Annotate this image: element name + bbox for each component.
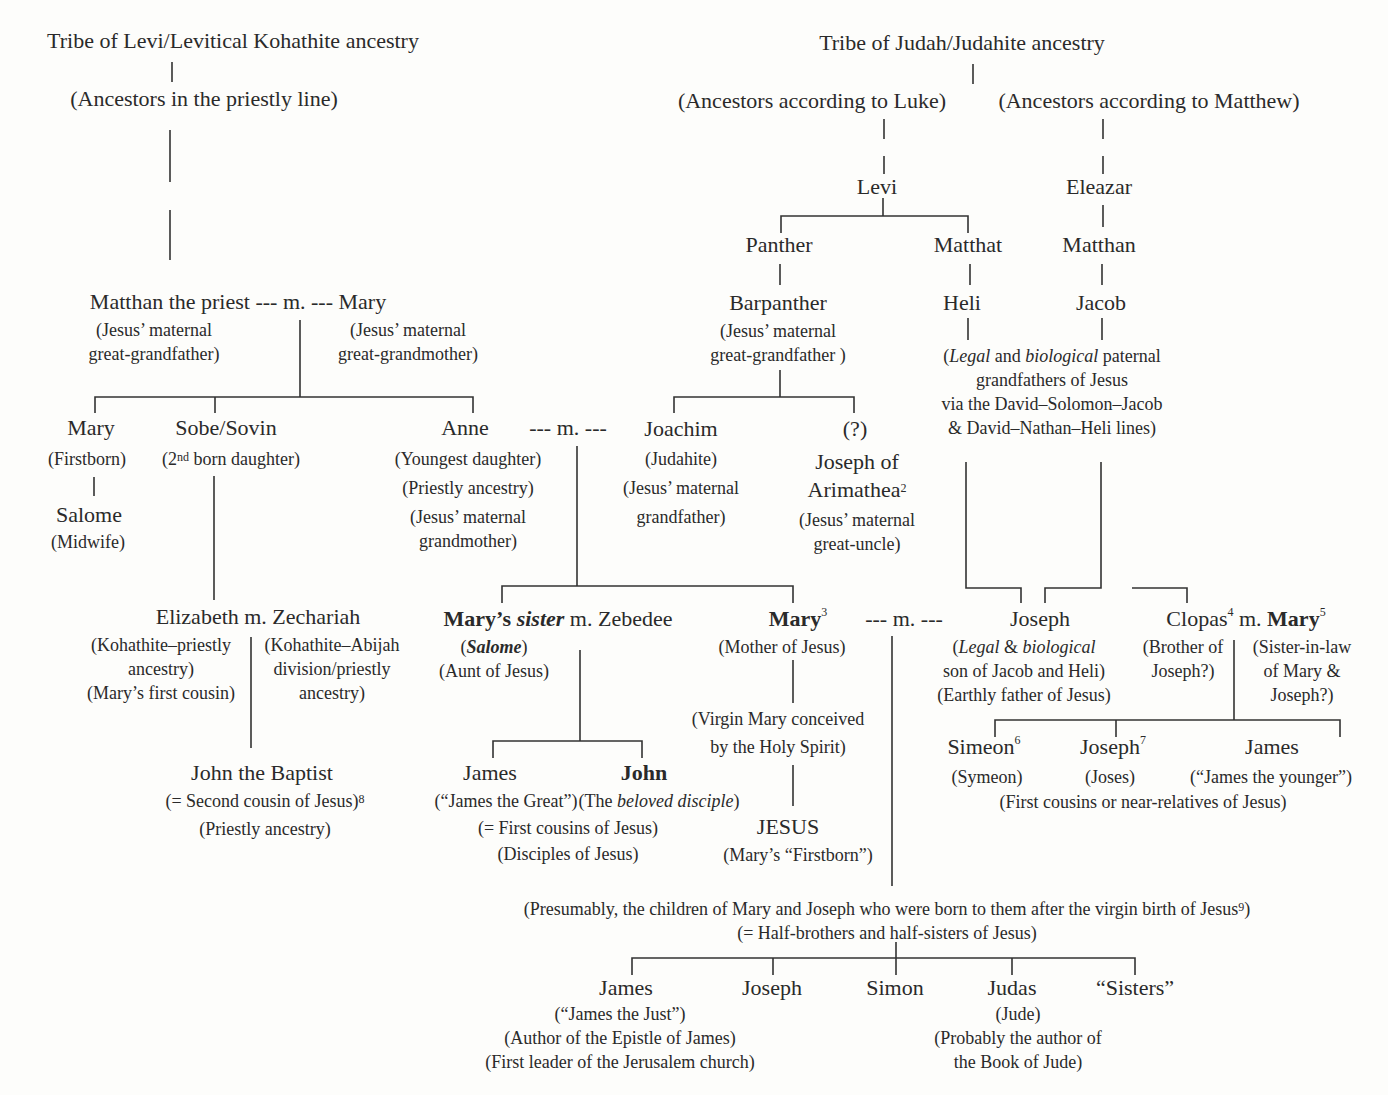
clopas-mary-couple: Clopas4 m. Mary5	[1166, 608, 1325, 630]
heli: Heli	[943, 292, 981, 314]
james-the-just: James	[599, 977, 653, 999]
matthat: Matthat	[934, 234, 1002, 256]
mary-firstborn-note: (Firstborn)	[48, 447, 126, 471]
john-baptist-note: (= Second cousin of Jesus)8(Priestly anc…	[165, 789, 364, 841]
matthew-ancestors-label: (Ancestors according to Matthew)	[998, 90, 1299, 112]
eleazar: Eleazar	[1066, 176, 1132, 198]
joseph-note: (Legal & biologicalson of Jacob and Heli…	[937, 635, 1110, 707]
elizabeth-zechariah: Elizabeth m. Zechariah	[156, 606, 361, 628]
james-great-note: (“James the Great”)	[435, 789, 578, 813]
anne: Anne	[441, 417, 489, 439]
anne-joachim-marriage: --- m. ---	[529, 417, 607, 439]
clopas-note: (Brother ofJoseph?)	[1143, 635, 1223, 683]
matthan-note: (Jesus’ maternalgreat-grandfather)	[89, 318, 220, 366]
mary-firstborn: Mary	[67, 417, 115, 439]
virgin-conception-note: (Virgin Mary conceivedby the Holy Spirit…	[692, 707, 865, 759]
uncertain-marker: (?)	[843, 418, 867, 440]
mary-elder-note: (Jesus’ maternalgreat-grandmother)	[338, 318, 478, 366]
james-the-younger: James	[1245, 736, 1299, 758]
zebedee-children-note: (= First cousins of Jesus)(Disciples of …	[478, 816, 658, 866]
simon: Simon	[866, 977, 923, 999]
james-younger-note: (“James the younger”)	[1190, 765, 1352, 789]
judas-note: (Jude)(Probably the author ofthe Book of…	[934, 1002, 1101, 1074]
mary-mother-of-jesus: Mary3	[769, 608, 828, 630]
levi: Levi	[857, 176, 897, 198]
joses-note: (Joses)	[1085, 765, 1135, 789]
salome-midwife-note: (Midwife)	[51, 530, 125, 554]
jesus-note: (Mary’s “Firstborn”)	[723, 843, 872, 867]
joachim-note: (Judahite)(Jesus’ maternalgrandfather)	[623, 447, 739, 529]
judah-tribe-root: Tribe of Judah/Judahite ancestry	[819, 32, 1105, 54]
marys-sister-zebedee: Mary’s sister m. Zebedee	[444, 608, 673, 630]
james-the-great: James	[463, 762, 517, 784]
sisters: “Sisters”	[1096, 977, 1174, 999]
panther: Panther	[745, 234, 812, 256]
james-just-note: (“James the Just”)(Author of the Epistle…	[485, 1002, 754, 1074]
levi-tribe-root: Tribe of Levi/Levitical Kohathite ancest…	[47, 30, 419, 52]
joseph-joses: Joseph7	[1080, 736, 1146, 758]
barpanther: Barpanther	[729, 292, 827, 314]
sobe-note: (2nd born daughter)	[162, 447, 300, 471]
salome-midwife: Salome	[56, 504, 122, 526]
joseph-half-brother: Joseph	[742, 977, 802, 999]
half-siblings-note: (Presumably, the children of Mary and Jo…	[524, 897, 1250, 945]
joseph-father: Joseph	[1010, 608, 1070, 630]
joseph-arimathea-note: (Jesus’ maternalgreat-uncle)	[799, 508, 915, 556]
judas: Judas	[988, 977, 1037, 999]
sobe-sovin: Sobe/Sovin	[175, 417, 276, 439]
simeon: Simeon6	[947, 736, 1020, 758]
matthan-mary-couple: Matthan the priest --- m. --- Mary	[90, 291, 386, 313]
jesus: JESUS	[757, 816, 819, 838]
jacob: Jacob	[1076, 292, 1126, 314]
mary-clopas-note: (Sister-in-lawof Mary &Joseph?)	[1253, 635, 1352, 707]
john-the-baptist: John the Baptist	[191, 762, 333, 784]
mary-note: (Mother of Jesus)	[719, 635, 846, 659]
john-note: (The beloved disciple)	[579, 789, 740, 813]
elizabeth-note: (Kohathite–priestlyancestry)(Mary’s firs…	[87, 633, 235, 705]
grandfathers-note: (Legal and biological paternal grandfath…	[942, 344, 1163, 440]
simeon-note: (Symeon)	[952, 765, 1023, 789]
joseph-of-arimathea: Joseph ofArimathea2	[808, 448, 907, 504]
john-disciple: John	[621, 762, 667, 784]
luke-ancestors-label: (Ancestors according to Luke)	[678, 90, 946, 112]
priestly-ancestors-label: (Ancestors in the priestly line)	[70, 88, 338, 110]
barpanther-note: (Jesus’ maternalgreat-grandfather )	[710, 319, 845, 367]
clopas-children-note: (First cousins or near-relatives of Jesu…	[999, 790, 1286, 814]
marys-sister-note: (Salome)(Aunt of Jesus)	[439, 635, 549, 683]
joachim: Joachim	[644, 418, 717, 440]
mary-joseph-marriage: --- m. ---	[865, 608, 943, 630]
zechariah-note: (Kohathite–Abijahdivision/priestlyancest…	[265, 633, 400, 705]
matthan: Matthan	[1062, 234, 1135, 256]
anne-note: (Youngest daughter)(Priestly ancestry)(J…	[395, 447, 542, 553]
